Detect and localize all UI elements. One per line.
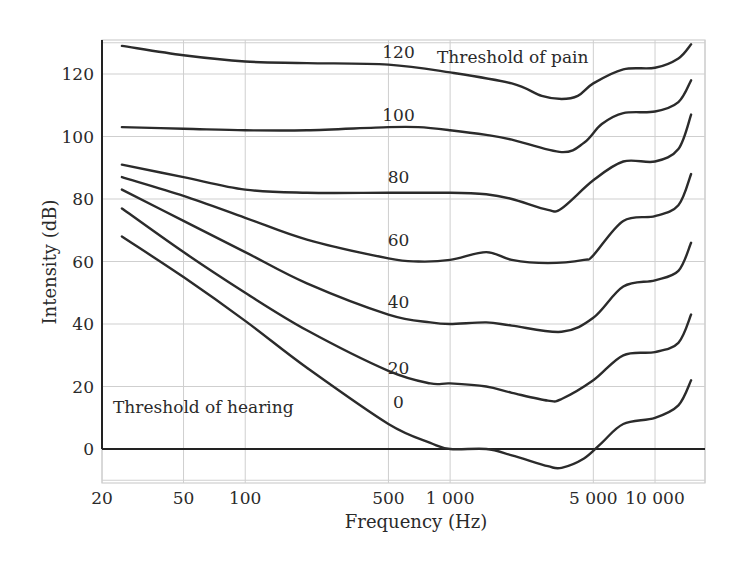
curve-label-100: 100	[382, 105, 414, 125]
curve-label-120: 120	[382, 42, 414, 62]
x-tick-label: 5 000	[569, 488, 618, 508]
y-tick-label: 120	[62, 64, 94, 84]
x-tick-label: 50	[173, 488, 195, 508]
curve-label-60: 60	[388, 230, 410, 250]
y-tick-label: 20	[72, 377, 94, 397]
curve-label-80: 80	[388, 167, 410, 187]
annotations: Threshold of pain Threshold of hearing	[113, 47, 588, 417]
curve-label-40: 40	[388, 292, 410, 312]
curve-label-20: 20	[388, 358, 410, 378]
threshold-of-hearing-label: Threshold of hearing	[113, 397, 294, 417]
y-tick-label: 80	[72, 189, 94, 209]
y-tick-label: 100	[62, 127, 94, 147]
equal-loudness-chart: 120100806040200 20501005001 0005 00010 0…	[0, 0, 745, 561]
threshold-of-pain-label: Threshold of pain	[437, 47, 588, 67]
x-tick-label: 10 000	[625, 488, 684, 508]
x-tick-label: 100	[229, 488, 261, 508]
x-tick-label: 20	[91, 488, 113, 508]
y-axis-title: Intensity (dB)	[39, 199, 60, 324]
curve-label-0: 0	[393, 392, 404, 412]
tick-labels: 20501005001 0005 00010 00002040608010012…	[62, 64, 685, 508]
y-tick-label: 60	[72, 252, 94, 272]
x-axis-title: Frequency (Hz)	[345, 511, 487, 532]
y-tick-label: 0	[83, 439, 94, 459]
loudness-curve-0-phon	[122, 237, 691, 469]
y-tick-label: 40	[72, 314, 94, 334]
chart-canvas: 120100806040200 20501005001 0005 00010 0…	[0, 0, 745, 561]
x-tick-label: 1 000	[426, 488, 475, 508]
x-tick-label: 500	[372, 488, 404, 508]
